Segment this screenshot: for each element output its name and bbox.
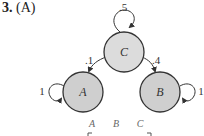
node-c-label: C xyxy=(120,45,129,59)
matrix-col-b: B xyxy=(113,118,119,129)
node-b: B xyxy=(140,72,180,112)
node-a: A xyxy=(63,72,103,112)
markov-diagram: .5 .1 .4 C A 1 B 1 A B C xyxy=(0,0,204,136)
edge-c-to-b-label: .4 xyxy=(152,54,161,66)
self-loop-a: 1 xyxy=(39,84,64,101)
edge-c-to-a-label: .1 xyxy=(85,54,93,66)
matrix-col-c: C xyxy=(137,118,144,129)
self-loop-c-label: .5 xyxy=(119,1,128,13)
self-loop-a-label: 1 xyxy=(39,85,45,97)
edge-c-to-a: .1 xyxy=(85,54,106,71)
self-loop-c: .5 xyxy=(114,1,134,32)
node-b-label: B xyxy=(156,85,164,99)
matrix-col-a: A xyxy=(88,118,96,129)
node-c: C xyxy=(104,32,144,72)
node-a-label: A xyxy=(78,85,87,99)
self-loop-b-label: 1 xyxy=(198,85,204,97)
edge-c-to-b: .4 xyxy=(142,54,161,71)
self-loop-b: 1 xyxy=(180,84,204,101)
matrix-header: A B C xyxy=(88,118,144,129)
matrix-brackets xyxy=(88,133,151,136)
